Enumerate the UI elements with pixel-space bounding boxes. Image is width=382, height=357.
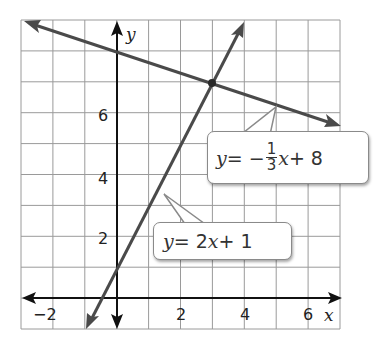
eq1-eq: = −	[227, 147, 265, 169]
y-tick-label: 2	[98, 229, 108, 248]
eq1-lhs: y	[216, 147, 227, 169]
eq1-rest: + 8	[289, 147, 323, 169]
eq2-rest: + 1	[219, 230, 253, 252]
callout2-pointer	[164, 194, 205, 224]
intersection-point	[208, 79, 216, 87]
x-tick-label: 4	[240, 305, 250, 324]
x-tick-label: 6	[303, 305, 313, 324]
line-y-neg-third-x-plus-8	[32, 24, 334, 124]
eq2-eq: = 2	[174, 230, 208, 252]
eq2-var: x	[208, 230, 219, 252]
eq1-var: x	[278, 147, 289, 169]
eq1-denominator: 3	[267, 158, 277, 173]
x-axis-label: x	[324, 305, 334, 325]
x-tick-label: 2	[176, 305, 186, 324]
x-tick-label: −2	[33, 305, 57, 324]
y-tick-label: 4	[98, 169, 108, 188]
eq2-lhs: y	[163, 230, 174, 252]
equation-callout-2: y = 2 x + 1	[153, 222, 292, 260]
equation-callout-1: y = − 1 3 x + 8	[207, 131, 369, 184]
eq1-fraction: 1 3	[266, 142, 278, 173]
y-tick-label: 6	[98, 106, 108, 125]
y-axis-label: y	[125, 24, 136, 44]
